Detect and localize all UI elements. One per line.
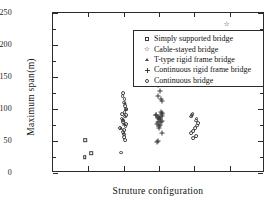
square-marker-icon xyxy=(89,151,93,155)
y-axis-tick xyxy=(53,109,58,110)
star-marker-icon: ☆ xyxy=(144,46,150,53)
y-axis-tick-right xyxy=(258,13,263,14)
y-axis-title: Maximum span(m) xyxy=(26,22,36,172)
circle-marker-icon xyxy=(195,117,199,121)
plus-marker-icon xyxy=(155,94,160,99)
x-axis-tick-top xyxy=(88,13,89,17)
x-axis-tick xyxy=(230,166,231,171)
y-tick-label: 100 xyxy=(0,104,12,113)
x-axis-tick xyxy=(124,166,125,171)
y-tick-label: 50 xyxy=(4,136,12,145)
circle-marker-icon xyxy=(122,128,126,132)
y-axis-tick-right xyxy=(258,109,263,110)
legend-label: Continuous rigid frame bridge xyxy=(154,65,251,75)
x-axis-tick xyxy=(88,166,89,171)
circle-marker-icon xyxy=(119,151,123,155)
legend-item[interactable]: Continuous rigid frame bridge xyxy=(134,65,263,75)
triangle-marker-icon xyxy=(145,58,149,61)
y-axis-minor-tick xyxy=(53,93,56,94)
x-axis-tick xyxy=(194,166,195,171)
plus-marker-icon xyxy=(159,109,164,114)
legend-item[interactable]: T-type rigid frame bridge xyxy=(134,55,263,65)
y-axis-minor-tick xyxy=(53,125,56,126)
y-tick-label: 200 xyxy=(0,40,12,49)
y-axis-minor-tick xyxy=(53,61,56,62)
y-axis-minor-tick-right xyxy=(260,157,263,158)
y-tick-label: 0 xyxy=(8,168,12,177)
y-axis-tick xyxy=(53,173,58,174)
circle-marker-icon xyxy=(191,112,195,116)
plus-marker-icon xyxy=(157,89,162,94)
circle-marker-icon xyxy=(145,79,149,83)
legend-marker xyxy=(140,79,154,83)
legend-label: T-type rigid frame bridge xyxy=(154,55,235,65)
y-tick-label: 250 xyxy=(0,8,12,17)
x-axis-tick-top xyxy=(230,13,231,17)
plus-marker-icon xyxy=(155,139,160,144)
y-tick-label: 150 xyxy=(0,72,12,81)
circle-marker-icon xyxy=(118,126,122,130)
legend-item[interactable]: Continuous bridge xyxy=(134,76,263,86)
legend-marker xyxy=(140,58,154,61)
y-axis-tick-right xyxy=(258,141,263,142)
y-axis-minor-tick xyxy=(53,29,56,30)
x-axis-title: Struture configuration xyxy=(52,186,264,196)
x-axis-tick-top xyxy=(194,13,195,17)
y-axis-tick-right xyxy=(258,173,263,174)
legend-label: Continuous bridge xyxy=(154,76,213,86)
legend-marker xyxy=(140,37,154,41)
star-marker-icon: ☆ xyxy=(224,21,230,28)
square-marker-icon xyxy=(83,155,87,159)
legend-item[interactable]: ☆Cable-stayed bridge xyxy=(134,44,263,54)
y-axis-minor-tick-right xyxy=(260,93,263,94)
y-axis-tick xyxy=(53,77,58,78)
x-axis-tick-top xyxy=(159,13,160,17)
y-axis-tick xyxy=(53,45,58,46)
circle-marker-icon xyxy=(121,91,125,95)
legend-item[interactable]: Simply supported bridge xyxy=(134,34,263,44)
y-axis-tick xyxy=(53,141,58,142)
y-axis-minor-tick xyxy=(53,157,56,158)
chart-legend: Simply supported bridge☆Cable-stayed bri… xyxy=(133,30,264,87)
legend-marker xyxy=(140,68,154,73)
x-axis-tick-top xyxy=(124,13,125,17)
square-marker-icon xyxy=(145,37,149,41)
y-axis-minor-tick-right xyxy=(260,125,263,126)
legend-label: Cable-stayed bridge xyxy=(154,45,218,55)
legend-label: Simply supported bridge xyxy=(154,34,233,44)
legend-marker: ☆ xyxy=(140,46,154,53)
plot-area: ☆☆☆ Simply supported bridge☆Cable-stayed… xyxy=(52,12,264,172)
plus-marker-icon xyxy=(145,68,150,73)
scatter-chart-figure: 050100150200250 Maximum span(m) ☆☆☆ Simp… xyxy=(0,0,279,207)
plus-marker-icon xyxy=(159,131,164,136)
y-axis-tick xyxy=(53,13,58,14)
x-axis-tick xyxy=(159,166,160,171)
circle-marker-icon xyxy=(194,134,198,138)
square-marker-icon xyxy=(83,139,87,143)
